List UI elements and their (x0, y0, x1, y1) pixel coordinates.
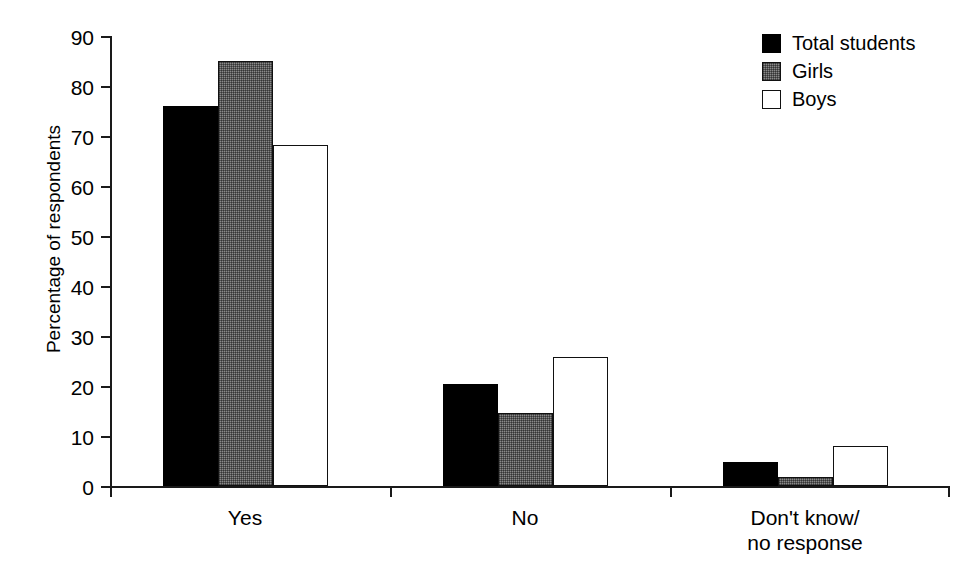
legend-label-2: Boys (792, 89, 836, 109)
y-tick-30: 30 (101, 336, 110, 338)
y-tick-80: 80 (101, 86, 110, 88)
cropped-title-strip (0, 0, 978, 12)
y-tick-60: 60 (101, 186, 110, 188)
bar-0-2 (723, 462, 778, 486)
chart-legend: Total studentsGirlsBoys (762, 29, 915, 113)
y-axis-title: Percentage of respondents (43, 89, 65, 389)
x-category-label-2: Don't know/no response (747, 506, 863, 556)
bar-0-0 (163, 106, 218, 486)
y-tick-10: 10 (101, 436, 110, 438)
x-category-label-1: No (512, 506, 539, 531)
bar-1-1 (498, 413, 553, 487)
x-category-label-0: Yes (228, 506, 262, 531)
bar-2-2 (833, 446, 888, 487)
y-tick-40: 40 (101, 286, 110, 288)
legend-item-0[interactable]: Total students (762, 29, 915, 57)
legend-swatch-total-students (762, 34, 781, 53)
y-tick-20: 20 (101, 386, 110, 388)
x-axis-line (110, 486, 950, 488)
y-tick-50: 50 (101, 236, 110, 238)
y-tick-label-60: 60 (71, 177, 94, 198)
y-tick-label-20: 20 (71, 377, 94, 398)
x-category-label-line: Don't know/ (747, 506, 863, 531)
x-category-label-line: Yes (228, 506, 262, 531)
bar-1-2 (778, 477, 833, 486)
y-tick-0: 0 (101, 486, 110, 488)
y-tick-label-40: 40 (71, 277, 94, 298)
y-tick-label-10: 10 (71, 427, 94, 448)
legend-item-1[interactable]: Girls (762, 57, 915, 85)
bar-2-0 (273, 145, 328, 486)
bar-0-1 (443, 384, 498, 487)
y-axis-line (110, 36, 112, 487)
y-tick-label-80: 80 (71, 77, 94, 98)
y-tick-90: 90 (101, 36, 110, 38)
bar-chart-figure: Percentage of respondents 01020304050607… (0, 0, 978, 568)
legend-label-0: Total students (792, 33, 915, 53)
legend-label-1: Girls (792, 61, 833, 81)
y-tick-label-30: 30 (71, 327, 94, 348)
x-category-label-line: no response (747, 531, 863, 556)
x-tick-0 (110, 486, 112, 497)
x-tick-1 (390, 486, 392, 497)
bar-2-1 (553, 357, 608, 486)
x-tick-2 (670, 486, 672, 497)
y-tick-label-90: 90 (71, 27, 94, 48)
legend-swatch-girls (762, 62, 781, 81)
y-tick-label-0: 0 (82, 477, 94, 498)
bar-1-0 (218, 61, 273, 486)
y-tick-label-70: 70 (71, 127, 94, 148)
legend-swatch-boys (762, 90, 781, 109)
x-tick-3 (948, 486, 950, 497)
y-tick-label-50: 50 (71, 227, 94, 248)
y-tick-70: 70 (101, 136, 110, 138)
x-category-label-line: No (512, 506, 539, 531)
legend-item-2[interactable]: Boys (762, 85, 915, 113)
